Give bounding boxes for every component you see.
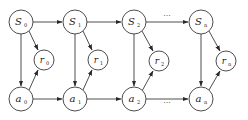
state-reward-edges	[29, 31, 220, 51]
reward-node-r1: r 1	[88, 50, 108, 70]
svg-text:0: 0	[46, 60, 49, 66]
svg-text:1: 1	[78, 99, 81, 105]
svg-text:2: 2	[161, 61, 164, 67]
edge-s0-r0	[29, 31, 38, 50]
svg-text:1: 1	[100, 60, 103, 66]
edge-a0-r0	[29, 70, 38, 90]
reward-node-rn: r n	[216, 51, 236, 71]
state-node-s2: S 2	[122, 10, 146, 34]
ellipsis-top: ···	[163, 11, 171, 20]
state-node-s0: S 0	[9, 10, 33, 34]
action-node-a2: a 2	[122, 87, 146, 111]
state-node-sn: S n	[189, 10, 213, 34]
reward-node-r2: r 2	[149, 51, 169, 71]
edge-s1-r1	[83, 31, 92, 50]
svg-text:S: S	[69, 16, 76, 27]
svg-text:2: 2	[137, 99, 140, 105]
svg-text:1: 1	[78, 22, 81, 28]
action-reward-edges	[29, 70, 220, 91]
svg-text:r: r	[40, 55, 45, 65]
svg-text:S: S	[195, 16, 202, 27]
edge-a1-r1	[83, 70, 92, 90]
svg-text:a: a	[70, 93, 76, 104]
action-node-a0: a 0	[9, 87, 33, 111]
svg-text:r: r	[94, 55, 99, 65]
state-node-s1: S 1	[63, 10, 87, 34]
edge-an-rn	[209, 71, 220, 90]
svg-text:0: 0	[24, 99, 27, 105]
svg-text:S: S	[128, 16, 135, 27]
action-node-a1: a 1	[63, 87, 87, 111]
svg-text:S: S	[15, 16, 22, 27]
edge-a2-r2	[142, 71, 153, 91]
action-node-an: a n	[189, 87, 213, 111]
edge-sn-rn	[209, 31, 220, 51]
svg-text:0: 0	[24, 22, 27, 28]
svg-text:a: a	[16, 93, 22, 104]
svg-text:r: r	[222, 56, 227, 66]
mdp-diagram: ··· ··· S 0 r 0 a 0 S 1 r 1 a 1 S 2 r	[0, 0, 248, 120]
svg-text:a: a	[129, 93, 135, 104]
svg-text:2: 2	[137, 22, 140, 28]
reward-node-r0: r 0	[34, 50, 54, 70]
edge-s2-r2	[142, 31, 153, 51]
ellipsis-bottom: ···	[163, 98, 171, 107]
svg-text:r: r	[155, 56, 160, 66]
svg-text:a: a	[196, 93, 202, 104]
